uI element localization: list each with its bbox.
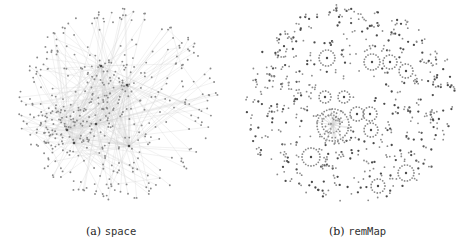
- panel-a-space-graph: [0, 0, 235, 215]
- network-graph-remmap: [235, 0, 469, 215]
- panel-b-remmap-graph: [235, 0, 469, 215]
- caption-a-name: space: [105, 225, 137, 237]
- network-graph-space: [0, 0, 235, 215]
- caption-b-label: (b): [329, 225, 345, 238]
- caption-b-name: remMap: [348, 225, 386, 237]
- caption-b: (b) remMap: [329, 225, 386, 238]
- caption-a: (a) space: [86, 225, 136, 238]
- caption-a-label: (a): [86, 225, 101, 238]
